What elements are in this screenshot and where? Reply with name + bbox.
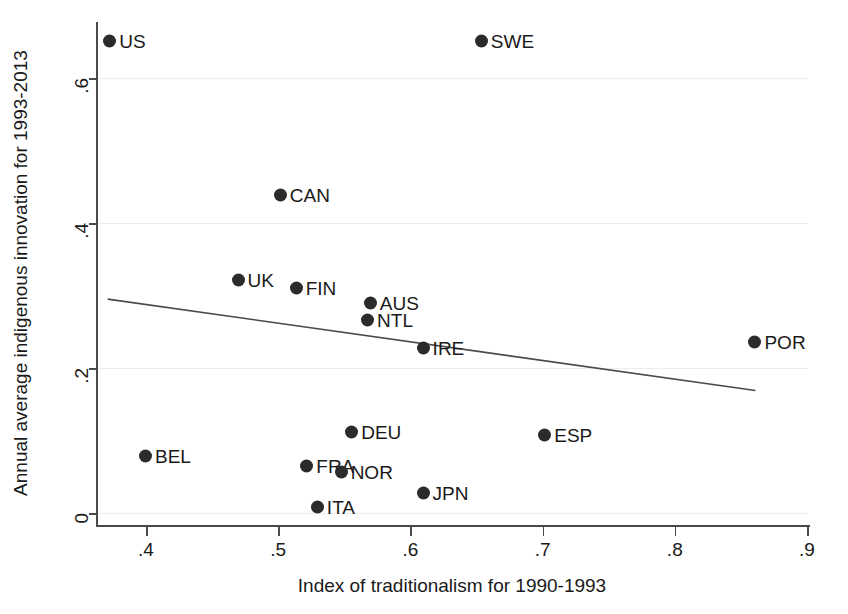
- point-marker: [475, 35, 488, 48]
- y-axis-title: Annual average indigenous innovation for…: [8, 0, 34, 546]
- data-point-nor[interactable]: NOR: [335, 463, 393, 482]
- gridline-y: [96, 513, 808, 514]
- x-tick-label: .6: [402, 539, 418, 561]
- point-marker: [232, 273, 245, 286]
- data-point-esp[interactable]: ESP: [538, 426, 592, 445]
- point-marker: [364, 297, 377, 310]
- point-marker: [748, 335, 761, 348]
- point-label: JPN: [433, 483, 469, 502]
- point-marker: [274, 189, 287, 202]
- data-point-us[interactable]: US: [103, 32, 145, 51]
- y-tick-label: .2: [71, 368, 93, 384]
- scatter-plot-figure: Annual average indigenous innovation for…: [0, 0, 848, 614]
- data-point-uk[interactable]: UK: [232, 270, 274, 289]
- point-marker: [417, 341, 430, 354]
- point-marker: [361, 314, 374, 327]
- x-tick-mark: [278, 527, 280, 536]
- x-tick-label: .8: [667, 539, 683, 561]
- point-marker: [538, 429, 551, 442]
- point-label: POR: [764, 332, 805, 351]
- gridline-y: [96, 368, 808, 369]
- x-tick-mark: [675, 527, 677, 536]
- x-tick-mark: [146, 527, 148, 536]
- data-point-ntl[interactable]: NTL: [361, 311, 413, 330]
- x-tick-label: .4: [138, 539, 154, 561]
- y-tick-label: 0: [71, 513, 93, 524]
- x-tick-mark: [543, 527, 545, 536]
- point-marker: [290, 282, 303, 295]
- point-label: ESP: [554, 426, 592, 445]
- x-tick-mark: [807, 527, 809, 536]
- point-label: DEU: [361, 422, 401, 441]
- point-label: FIN: [306, 279, 337, 298]
- y-axis-line: [96, 22, 98, 526]
- y-tick-label: .6: [71, 78, 93, 94]
- data-point-deu[interactable]: DEU: [345, 422, 401, 441]
- x-tick-label: .9: [799, 539, 815, 561]
- x-tick-label: .7: [535, 539, 551, 561]
- point-marker: [345, 425, 358, 438]
- point-marker: [311, 501, 324, 514]
- y-axis-title-text: Annual average indigenous innovation for…: [10, 50, 32, 496]
- data-point-bel[interactable]: BEL: [139, 446, 191, 465]
- point-label: UK: [248, 270, 274, 289]
- data-point-ita[interactable]: ITA: [311, 498, 355, 517]
- point-label: US: [119, 32, 145, 51]
- point-marker: [103, 35, 116, 48]
- y-tick-label: .4: [71, 223, 93, 239]
- point-label: CAN: [290, 186, 330, 205]
- point-label: SWE: [491, 32, 534, 51]
- x-axis-line: [96, 525, 810, 527]
- trend-line: [0, 0, 848, 614]
- point-marker: [335, 466, 348, 479]
- point-label: BEL: [155, 446, 191, 465]
- data-point-can[interactable]: CAN: [274, 186, 330, 205]
- data-point-por[interactable]: POR: [748, 332, 805, 351]
- gridline-y: [96, 223, 808, 224]
- data-point-ire[interactable]: IRE: [417, 338, 465, 357]
- data-point-jpn[interactable]: JPN: [417, 483, 469, 502]
- data-point-swe[interactable]: SWE: [475, 32, 534, 51]
- point-label: NOR: [351, 463, 393, 482]
- point-marker: [300, 459, 313, 472]
- point-marker: [139, 449, 152, 462]
- x-axis-title: Index of traditionalism for 1990-1993: [96, 575, 808, 597]
- point-label: IRE: [433, 338, 465, 357]
- gridline-y: [96, 78, 808, 79]
- x-tick-mark: [410, 527, 412, 536]
- point-marker: [417, 486, 430, 499]
- point-label: ITA: [327, 498, 355, 517]
- data-point-fin[interactable]: FIN: [290, 279, 337, 298]
- x-tick-label: .5: [270, 539, 286, 561]
- point-label: NTL: [377, 311, 413, 330]
